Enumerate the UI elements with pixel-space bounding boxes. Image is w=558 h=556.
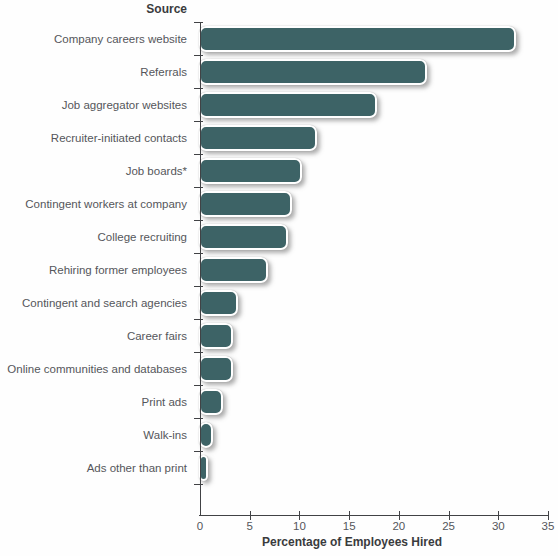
x-tick (250, 511, 251, 520)
category-label: College recruiting (0, 220, 187, 253)
x-tick (449, 511, 450, 520)
y-tick (194, 88, 203, 89)
category-label: Company careers website (0, 22, 187, 55)
y-tick (194, 319, 203, 320)
y-tick (194, 220, 203, 221)
bar-contingent-workers-at-company (199, 191, 292, 217)
x-axis-line (199, 515, 549, 516)
x-tick (498, 511, 499, 520)
bar-job-aggregator-websites (199, 92, 377, 118)
bar-print-ads (199, 389, 223, 415)
category-label: Career fairs (0, 319, 187, 352)
category-label: Recruiter-initiated contacts (0, 121, 187, 154)
bar-walk-ins (199, 422, 213, 448)
category-label: Walk-ins (0, 418, 187, 451)
bar-online-communities-and-databases (199, 356, 233, 382)
x-tick (349, 511, 350, 520)
x-axis-title: Percentage of Employees Hired (202, 535, 502, 549)
x-tick-label: 20 (384, 520, 414, 532)
bar-rehiring-former-employees (199, 257, 268, 283)
y-tick (194, 187, 203, 188)
category-label: Contingent and search agencies (0, 286, 187, 319)
bar-job-boards (199, 158, 302, 184)
x-tick-label: 0 (185, 520, 215, 532)
y-tick (194, 484, 203, 485)
y-tick (194, 121, 203, 122)
y-axis-line (200, 22, 201, 515)
y-tick (194, 154, 203, 155)
bar-referrals (199, 59, 427, 85)
category-label: Rehiring former employees (0, 253, 187, 286)
y-axis-header: Source (0, 2, 187, 16)
category-label: Online communities and databases (0, 352, 187, 385)
x-tick (548, 511, 549, 520)
x-tick-label: 25 (434, 520, 464, 532)
y-tick (194, 418, 203, 419)
category-label: Print ads (0, 385, 187, 418)
x-tick (299, 511, 300, 520)
x-tick-label: 15 (334, 520, 364, 532)
y-tick (194, 22, 203, 23)
y-tick (194, 286, 203, 287)
category-label: Ads other than print (0, 451, 187, 484)
x-tick (399, 511, 400, 520)
x-tick-label: 5 (235, 520, 265, 532)
x-tick-label: 30 (483, 520, 513, 532)
bar-college-recruiting (199, 224, 288, 250)
sources-of-hires-bar-chart: Source Company careers websiteReferralsJ… (0, 0, 558, 556)
bar-recruiter-initiated-contacts (199, 125, 317, 151)
y-tick (194, 55, 203, 56)
x-tick-label: 10 (284, 520, 314, 532)
y-tick (194, 385, 203, 386)
y-tick (194, 352, 203, 353)
category-label: Referrals (0, 55, 187, 88)
y-tick (194, 253, 203, 254)
bar-company-careers-website (199, 26, 516, 52)
y-tick (194, 451, 203, 452)
category-label: Job boards* (0, 154, 187, 187)
bar-contingent-and-search-agencies (199, 290, 238, 316)
x-tick-label: 35 (533, 520, 558, 532)
category-label: Contingent workers at company (0, 187, 187, 220)
bar-career-fairs (199, 323, 233, 349)
category-label: Job aggregator websites (0, 88, 187, 121)
